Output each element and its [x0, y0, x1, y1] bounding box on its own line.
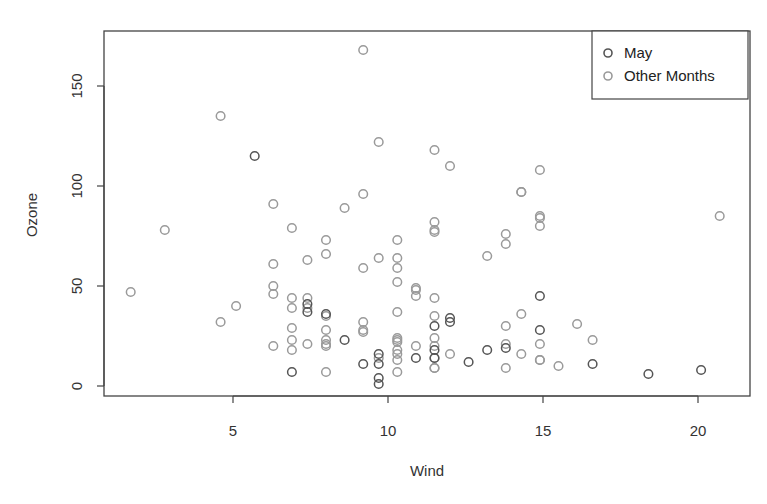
data-point-other-months [446, 162, 455, 171]
data-point-other-months [502, 364, 511, 373]
data-point-may [430, 322, 439, 331]
data-point-may [697, 366, 706, 375]
data-point-may [644, 370, 653, 379]
data-point-other-months [288, 224, 297, 233]
data-point-other-months [126, 288, 135, 297]
data-point-other-months [393, 236, 402, 245]
data-point-may [588, 360, 597, 369]
x-axis-title: Wind [410, 462, 444, 479]
legend-label-may: May [624, 44, 653, 61]
legend: May Other Months [592, 31, 748, 99]
data-point-may [288, 368, 297, 377]
data-point-other-months [715, 212, 724, 221]
data-point-other-months [517, 350, 526, 359]
y-axis-title: Ozone [23, 193, 40, 237]
data-point-may [250, 152, 259, 161]
data-point-other-months [430, 146, 439, 155]
data-point-may [464, 358, 473, 367]
data-point-other-months [288, 346, 297, 355]
data-point-other-months [430, 294, 439, 303]
data-point-other-months [412, 342, 421, 351]
data-point-other-months [322, 326, 331, 335]
data-point-other-months [359, 264, 368, 273]
legend-box [592, 31, 748, 99]
data-point-other-months [393, 264, 402, 273]
data-point-other-months [430, 312, 439, 321]
data-point-other-months [359, 190, 368, 199]
data-point-other-months [269, 200, 278, 209]
data-point-other-months [393, 368, 402, 377]
data-point-other-months [430, 364, 439, 373]
data-point-other-months [303, 256, 312, 265]
data-point-other-months [393, 308, 402, 317]
x-axis: 5101520 [229, 396, 707, 439]
data-point-other-months [588, 336, 597, 345]
data-point-other-months [554, 362, 563, 371]
data-point-other-months [573, 320, 582, 329]
data-point-other-months [269, 260, 278, 269]
data-point-may [536, 326, 545, 335]
data-point-other-months [517, 188, 526, 197]
data-point-may [536, 292, 545, 301]
data-point-other-months [359, 46, 368, 55]
data-point-other-months [288, 336, 297, 345]
data-point-other-months [393, 278, 402, 287]
x-tick-label: 10 [380, 422, 397, 439]
data-point-may [359, 360, 368, 369]
data-point-other-months [161, 226, 170, 235]
y-tick-label: 150 [68, 73, 85, 98]
data-point-other-months [232, 302, 241, 311]
data-point-other-months [483, 252, 492, 261]
x-tick-label: 5 [229, 422, 237, 439]
data-point-other-months [536, 340, 545, 349]
data-point-other-months [288, 294, 297, 303]
data-point-other-months [322, 250, 331, 259]
data-point-other-months [536, 356, 545, 365]
data-point-may [374, 374, 383, 383]
scatter-chart: 050100150 5101520 Wind Ozone May Other M… [0, 0, 767, 504]
y-axis: 050100150 [68, 73, 104, 390]
data-point-may [340, 336, 349, 345]
data-point-other-months [340, 204, 349, 213]
data-point-other-months [393, 254, 402, 263]
data-point-other-months [288, 324, 297, 333]
data-point-other-months [322, 368, 331, 377]
data-point-other-months [502, 230, 511, 239]
data-point-other-months [536, 166, 545, 175]
data-point-other-months [216, 318, 225, 327]
y-tick-label: 100 [68, 173, 85, 198]
data-point-other-months [269, 342, 278, 351]
data-point-other-months [288, 304, 297, 313]
data-point-may [374, 360, 383, 369]
data-point-may [412, 354, 421, 363]
data-point-other-months [393, 356, 402, 365]
y-tick-label: 50 [68, 278, 85, 295]
x-tick-label: 20 [690, 422, 707, 439]
data-point-other-months [374, 138, 383, 147]
y-tick-label: 0 [68, 382, 85, 390]
data-point-other-months [374, 254, 383, 263]
data-point-other-months [303, 340, 312, 349]
data-point-other-months [502, 240, 511, 249]
data-point-other-months [502, 322, 511, 331]
data-point-other-months [446, 350, 455, 359]
data-point-other-months [517, 310, 526, 319]
x-tick-label: 15 [535, 422, 552, 439]
legend-label-other-months: Other Months [624, 67, 715, 84]
data-point-other-months [216, 112, 225, 121]
data-point-other-months [322, 236, 331, 245]
data-point-may [483, 346, 492, 355]
